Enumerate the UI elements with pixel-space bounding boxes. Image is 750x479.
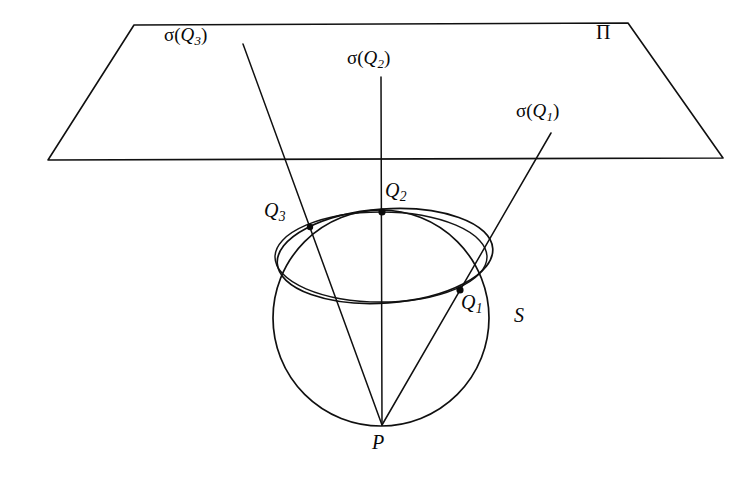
sigma-q1-prefix: σ( [516, 100, 533, 121]
sigma-q2-base: Q [364, 47, 378, 68]
projection-plane-pi [48, 23, 723, 160]
point-q1-label: Q1 [461, 292, 483, 315]
point-p-label: P [372, 432, 384, 452]
point-q2-label: Q2 [385, 180, 407, 203]
plane-pi-glyph: Π [596, 21, 610, 43]
sigma-q3-label: σ(Q3) [164, 25, 207, 48]
point-q3-label: Q3 [264, 200, 286, 223]
sphere-s-label: S [514, 305, 524, 325]
ray-p-q3-sigma-q3 [243, 44, 382, 425]
sigma-q2-suffix: ) [384, 47, 390, 68]
point-q2 [378, 208, 385, 215]
point-p-glyph: P [372, 431, 384, 453]
figure-root: Π S P Q2 Q3 Q1 σ(Q3) σ(Q2) σ(Q1) [0, 0, 750, 479]
point-q1-subscript: 1 [476, 301, 483, 316]
sigma-q1-label: σ(Q1) [516, 101, 559, 124]
point-q2-base: Q [385, 179, 399, 201]
sigma-q2-label: σ(Q2) [347, 48, 390, 71]
point-q1-base: Q [461, 291, 475, 313]
point-q2-subscript: 2 [400, 189, 407, 204]
point-q3 [307, 224, 313, 230]
point-q3-subscript: 3 [279, 209, 286, 224]
ray-p-q1-sigma-q1 [382, 133, 551, 425]
sigma-q3-prefix: σ( [164, 24, 181, 45]
plane-pi-label: Π [596, 22, 610, 42]
sigma-q3-suffix: ) [201, 24, 207, 45]
sigma-q2-prefix: σ( [347, 47, 364, 68]
diagram-canvas [0, 0, 750, 479]
sigma-q1-base: Q [533, 100, 547, 121]
sigma-q1-suffix: ) [553, 100, 559, 121]
sigma-q3-base: Q [181, 24, 195, 45]
ray-p-q2-sigma-q2 [381, 77, 382, 425]
sphere-s-glyph: S [514, 304, 524, 326]
point-q3-base: Q [264, 199, 278, 221]
